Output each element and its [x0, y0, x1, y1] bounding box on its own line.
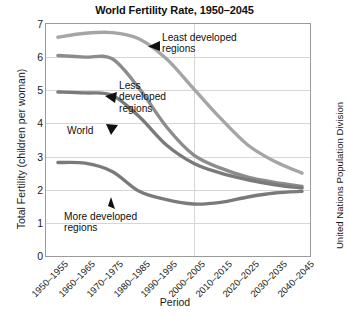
chart-title: World Fertility Rate, 1950–2045	[0, 4, 349, 16]
arrow-icon-less-developed	[104, 91, 118, 104]
annotation-world: World	[67, 125, 93, 136]
annotation-less-developed-regions: Less developed regions	[119, 80, 166, 114]
annotation-more-developed-regions: More developed regions	[64, 211, 137, 234]
arrow-icon-least-developed	[147, 40, 161, 52]
y-tick-7: 7	[37, 19, 43, 30]
y-axis-label: Total Fertility (children per woman)	[15, 44, 27, 254]
annotation-least-developed-regions: Least developed regions	[162, 32, 237, 55]
plot-area: 7 6 5 4 3 2 1 0 Least developed regions …	[45, 23, 311, 257]
y-tick-1: 1	[37, 218, 43, 229]
y-tick-4: 4	[37, 118, 43, 129]
y-tick-5: 5	[37, 85, 43, 96]
y-tick-3: 3	[37, 151, 43, 162]
y-tick-6: 6	[37, 52, 43, 63]
y-tick-0: 0	[37, 251, 43, 262]
fertility-rate-chart-figure: World Fertility Rate, 1950–2045 Total Fe…	[0, 0, 349, 318]
arrow-icon-world	[105, 123, 119, 136]
source-credit-label: United Nations Population Division	[334, 71, 345, 281]
y-tick-2: 2	[37, 184, 43, 195]
arrow-icon-more-developed	[106, 196, 117, 210]
